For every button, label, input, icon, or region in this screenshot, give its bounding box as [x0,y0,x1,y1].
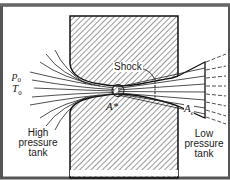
low-pressure-tank-label: Low pressure tank [184,129,224,159]
upper-wall [70,16,178,86]
a-e-label: Ae [184,103,194,118]
a-star-label: A* [106,101,118,111]
throat-marker [112,85,124,97]
exit-jet [206,54,226,124]
high-pressure-tank-label: High pressure tank [18,128,58,158]
lower-wall [70,94,178,178]
t0-label: T0 [12,83,22,98]
shock-label: Shock [113,62,143,72]
